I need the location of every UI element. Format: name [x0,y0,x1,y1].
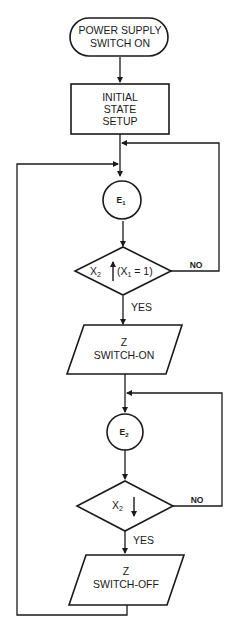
output-switch-on: Z SWITCH-ON [67,325,182,374]
init-label-line3: SETUP [102,115,137,127]
init-process-box: INITIAL STATE SETUP [71,84,169,134]
outer-loop [17,164,127,615]
out2-line2: SWITCH-OFF [93,578,159,590]
start-terminator: POWER SUPPLY SWITCH ON [70,18,168,56]
out1-line2: SWITCH-ON [94,349,155,361]
start-label-line2: SWITCH ON [90,37,150,49]
d2-var-sub: 2 [119,505,123,512]
out2-line1: Z [123,565,130,577]
flowchart: POWER SUPPLY SWITCH ON INITIAL STATE SET… [0,0,237,643]
d1-cond-rest: = 1) [131,265,152,277]
d1-cond: (X [117,265,128,277]
out1-line1: Z [121,336,128,348]
output-switch-off: Z SWITCH-OFF [69,555,184,605]
decision-1-diamond: X2 (X1 = 1) NO YES [75,247,203,313]
init-label-line2: STATE [104,103,136,115]
svg-text:(X1 = 1): (X1 = 1) [117,265,153,278]
d1-no-label: NO [190,260,203,270]
decision-2-diamond: X2 NO YES [77,481,204,546]
d1-var: X [90,265,97,277]
d1-yes-label: YES [131,301,152,313]
d2-yes-label: YES [133,534,154,546]
d1-var-sub: 2 [97,271,101,278]
d2-no-label: NO [191,495,204,505]
event-e1-circle: E1 [103,181,141,219]
event-e2-circle: E2 [107,414,143,450]
init-label-line1: INITIAL [102,91,138,103]
start-label-line1: POWER SUPPLY [78,24,161,36]
d2-var: X [112,499,119,511]
